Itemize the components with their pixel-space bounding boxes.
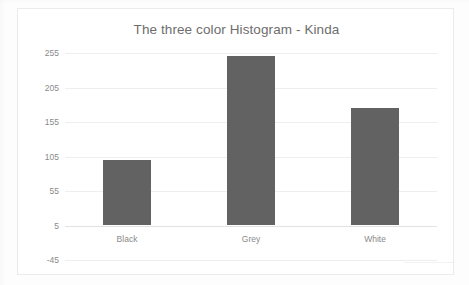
bar-group: Black <box>65 53 189 260</box>
scan-artifact-line <box>404 262 454 263</box>
y-axis-tick-label: -45 <box>47 255 59 265</box>
y-axis-tick-label: 155 <box>45 117 59 127</box>
plot-area: 255205155105555-45 BlackGreyWhite <box>65 53 437 260</box>
gridline <box>65 260 437 261</box>
y-axis-tick-label: 105 <box>45 152 59 162</box>
y-axis-tick-label: 55 <box>50 186 59 196</box>
x-axis-tick-label: Grey <box>189 234 313 244</box>
bar-grey[interactable] <box>227 56 275 225</box>
scanned-page: The three color Histogram - Kinda 255205… <box>0 0 469 285</box>
y-axis-tick-label: 5 <box>54 221 59 231</box>
bar-black[interactable] <box>103 160 151 226</box>
bar-group: Grey <box>189 53 313 260</box>
chart-title: The three color Histogram - Kinda <box>18 22 455 37</box>
y-axis-tick-label: 255 <box>45 48 59 58</box>
chart-frame: The three color Histogram - Kinda 255205… <box>17 8 454 275</box>
bar-group: White <box>313 53 437 260</box>
y-axis-tick-label: 205 <box>45 83 59 93</box>
x-axis-tick-label: Black <box>65 234 189 244</box>
bar-white[interactable] <box>351 108 399 226</box>
x-axis-tick-label: White <box>313 234 437 244</box>
